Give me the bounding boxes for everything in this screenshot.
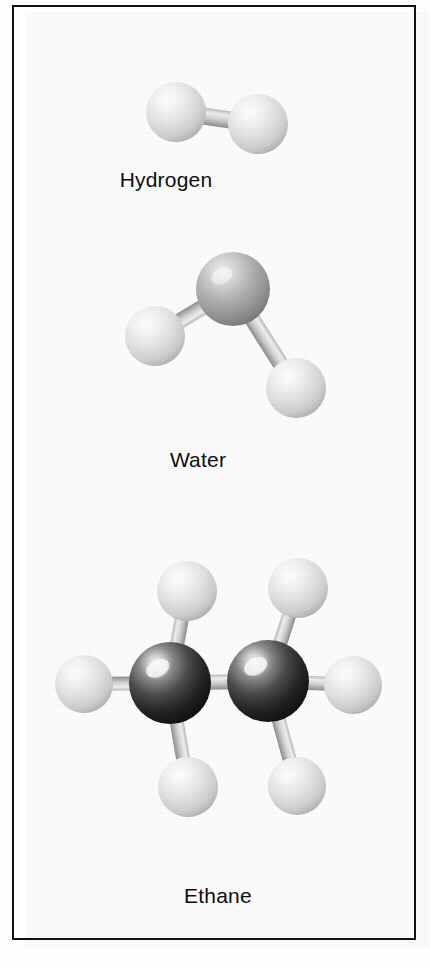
atom-hydrogen-h-0 <box>146 82 206 142</box>
atom-ethane-c-0 <box>129 642 211 724</box>
plate-border: Hydrogen Water Ethane <box>12 5 416 940</box>
atom-water-o-0 <box>196 252 270 326</box>
atom-ethane-h-3 <box>157 561 217 621</box>
atom-ethane-h-4 <box>158 757 218 817</box>
caption-water: Water <box>0 449 398 470</box>
bond-layer <box>84 104 353 789</box>
caption-ethane: Ethane <box>18 885 418 906</box>
atom-ethane-h-5 <box>324 656 382 714</box>
bond-group-ethane <box>84 586 353 788</box>
atom-ethane-h-6 <box>268 558 328 618</box>
atom-ethane-c-1 <box>227 640 309 722</box>
atom-group-water <box>125 252 326 418</box>
atom-ethane-h-7 <box>268 757 326 815</box>
atom-water-h-1 <box>125 306 185 366</box>
caption-hydrogen: Hydrogen <box>0 169 366 190</box>
atom-water-h-2 <box>266 358 326 418</box>
atom-ethane-h-2 <box>55 655 113 713</box>
atom-hydrogen-h-1 <box>228 94 288 154</box>
